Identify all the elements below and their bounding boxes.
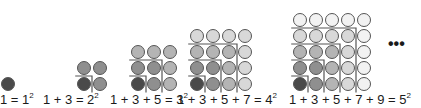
dot [207, 78, 220, 91]
dot [310, 62, 323, 75]
dot [207, 46, 220, 59]
dot [358, 62, 371, 75]
dot [294, 62, 307, 75]
equation-text: 1 + 3 + 5 + 7 = 4 [177, 92, 272, 107]
dot [191, 78, 204, 91]
dot [78, 78, 91, 91]
dot [164, 78, 177, 91]
dot [342, 14, 355, 27]
equation-text: 1 = 1 [0, 92, 29, 107]
dot [164, 46, 177, 59]
dot [310, 30, 323, 43]
dot [132, 78, 145, 91]
dot [207, 62, 220, 75]
dot [191, 46, 204, 59]
dot [223, 78, 236, 91]
dot [223, 30, 236, 43]
dot [164, 62, 177, 75]
dot [239, 46, 252, 59]
equation-label: 1 + 3 + 5 + 7 = 42 [177, 91, 277, 107]
dot [358, 46, 371, 59]
dot [326, 62, 339, 75]
dot [239, 78, 252, 91]
continuation-ellipsis: ••• [388, 35, 405, 52]
dot [191, 30, 204, 43]
dot [132, 62, 145, 75]
equation-text: 1 + 3 = 2 [43, 92, 94, 107]
exponent: 2 [406, 91, 411, 100]
dot [342, 78, 355, 91]
dot [342, 62, 355, 75]
square-4-group: 1 + 3 + 5 + 7 = 42 [177, 30, 277, 108]
equation-label: 1 + 3 = 22 [43, 91, 99, 107]
dot [342, 30, 355, 43]
dot [78, 62, 91, 75]
equation-text: 1 + 3 + 5 + 7 + 9 = 5 [289, 92, 406, 107]
dot [326, 46, 339, 59]
square-5-group: 1 + 3 + 5 + 7 + 9 = 52 [289, 14, 411, 108]
exponent: 2 [29, 91, 34, 100]
dot [223, 62, 236, 75]
dot [294, 78, 307, 91]
dot [94, 78, 107, 91]
dot [358, 30, 371, 43]
dot [207, 30, 220, 43]
dot [132, 46, 145, 59]
equation-label: 1 + 3 + 5 + 7 + 9 = 52 [289, 91, 411, 107]
dot [310, 14, 323, 27]
odd-squares-diagram: 1 = 121 + 3 = 221 + 3 + 5 = 321 + 3 + 5 … [0, 0, 421, 108]
dot [326, 14, 339, 27]
equation-label: 1 = 12 [0, 91, 34, 107]
dot [294, 30, 307, 43]
dot [2, 78, 15, 91]
dot [310, 46, 323, 59]
dot [310, 78, 323, 91]
square-1-group: 1 = 12 [0, 78, 34, 108]
dot [239, 62, 252, 75]
dot [148, 78, 161, 91]
dot [223, 46, 236, 59]
dot [342, 46, 355, 59]
dot [191, 62, 204, 75]
dot [294, 14, 307, 27]
dot [326, 78, 339, 91]
exponent: 2 [94, 91, 99, 100]
dot [94, 62, 107, 75]
equation-text: 1 + 3 + 5 = 3 [110, 92, 183, 107]
dot [148, 46, 161, 59]
square-2-group: 1 + 3 = 22 [43, 62, 107, 108]
dot [326, 30, 339, 43]
dot [358, 78, 371, 91]
dot [239, 30, 252, 43]
dot [294, 46, 307, 59]
dot [358, 14, 371, 27]
exponent: 2 [272, 91, 277, 100]
dot [148, 62, 161, 75]
